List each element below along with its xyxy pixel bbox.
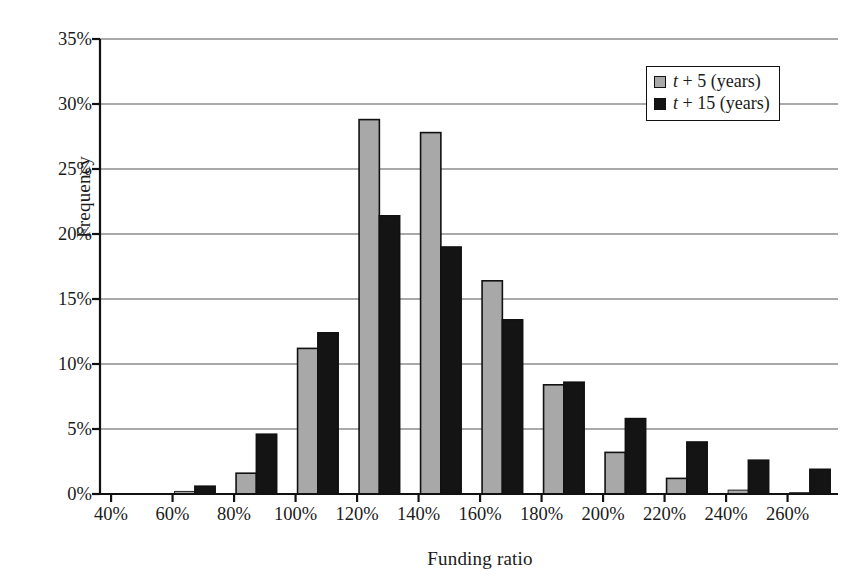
bar-series-group bbox=[175, 120, 831, 494]
bar bbox=[318, 333, 338, 494]
x-tick-label: 120% bbox=[335, 504, 378, 525]
legend-label-series-2: t + 15 (years) bbox=[673, 93, 770, 115]
bar bbox=[625, 419, 645, 494]
gray-swatch-icon bbox=[654, 76, 666, 88]
bar bbox=[421, 133, 441, 494]
y-axis-ticks bbox=[92, 39, 100, 494]
bar bbox=[256, 434, 276, 494]
bar bbox=[195, 486, 215, 494]
x-tick-label: 160% bbox=[458, 504, 501, 525]
legend-item: t + 5 (years) bbox=[654, 71, 770, 93]
bar bbox=[298, 348, 318, 494]
legend-label-series-1: t + 5 (years) bbox=[673, 71, 761, 93]
x-tick-label: 80% bbox=[217, 504, 251, 525]
x-axis-title: Funding ratio bbox=[100, 548, 860, 570]
x-tick-label: 40% bbox=[94, 504, 128, 525]
x-tick-label: 140% bbox=[397, 504, 440, 525]
legend-item: t + 15 (years) bbox=[654, 93, 770, 115]
legend: t + 5 (years) t + 15 (years) bbox=[646, 66, 780, 121]
black-swatch-icon bbox=[654, 98, 666, 110]
x-tick-label: 60% bbox=[156, 504, 190, 525]
bar bbox=[605, 452, 625, 494]
bar bbox=[564, 382, 584, 494]
bar bbox=[441, 247, 461, 494]
bar bbox=[502, 320, 522, 494]
bar-chart: Frequency 35% 30% 25% 20% 15% 10% 5% 0% … bbox=[0, 0, 860, 585]
legend-label-rest: + 15 (years) bbox=[678, 93, 770, 113]
x-tick-label: 180% bbox=[520, 504, 563, 525]
bar bbox=[482, 281, 502, 494]
x-tick-label: 260% bbox=[766, 504, 809, 525]
legend-label-rest: + 5 (years) bbox=[678, 71, 761, 91]
bar bbox=[687, 442, 707, 494]
x-tick-label: 200% bbox=[581, 504, 624, 525]
x-tick-label: 220% bbox=[643, 504, 686, 525]
bar bbox=[748, 460, 768, 494]
bar bbox=[236, 473, 256, 494]
bar bbox=[667, 478, 687, 494]
bar bbox=[810, 469, 830, 494]
bar bbox=[379, 216, 399, 494]
x-tick-label: 240% bbox=[704, 504, 747, 525]
x-axis-ticks bbox=[111, 494, 788, 502]
bar bbox=[359, 120, 379, 494]
x-tick-label: 100% bbox=[274, 504, 317, 525]
bar bbox=[544, 385, 564, 494]
